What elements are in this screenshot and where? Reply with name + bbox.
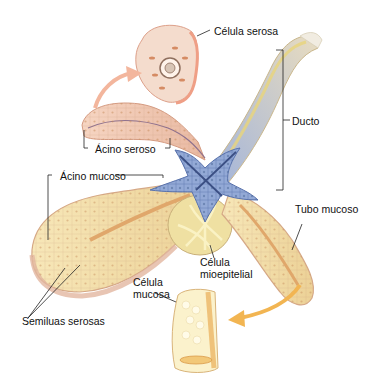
label-acino-seroso: Ácino seroso (95, 143, 156, 155)
salivary-gland-diagram: Célula serosa Ducto Ácino seroso Ácino m… (0, 0, 378, 381)
label-celula-mioepitelial-line1: Célula (200, 256, 253, 268)
label-semiluas-serosas: Semiluas serosas (22, 315, 105, 327)
label-celula-mioepitelial-line2: mioepitelial (200, 268, 253, 280)
label-celula-mioepitelial: Célula mioepitelial (200, 256, 253, 280)
label-celula-serosa: Célula serosa (214, 25, 278, 37)
serous-cell-inset (136, 25, 198, 103)
label-tubo-mucoso: Tubo mucoso (295, 203, 358, 215)
label-acino-mucoso: Ácino mucoso (60, 170, 126, 182)
label-celula-mucosa: Célula mucosa (133, 276, 170, 300)
label-celula-mucosa-line1: Célula (133, 276, 170, 288)
magnify-arrow-serous (95, 66, 142, 108)
mucous-cell-inset (172, 289, 218, 372)
label-ducto: Ducto (292, 115, 319, 127)
label-celula-mucosa-line2: mucosa (133, 288, 170, 300)
